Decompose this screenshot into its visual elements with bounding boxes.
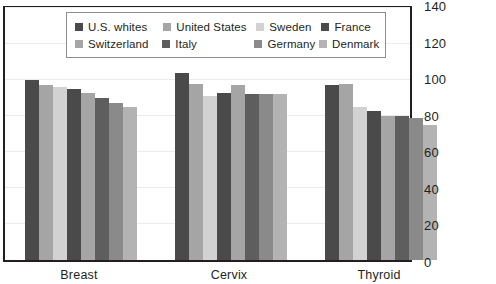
legend-swatch-icon	[254, 40, 262, 48]
legend-item[interactable]: Italy	[162, 38, 254, 50]
bar	[189, 84, 203, 260]
x-axis: BreastCervixThyroid	[3, 265, 412, 284]
legend-label: U.S. whites	[88, 21, 147, 33]
legend-item[interactable]: France	[321, 21, 379, 33]
bar	[325, 85, 339, 260]
bar	[245, 94, 259, 260]
bar	[95, 98, 109, 260]
legend-swatch-icon	[163, 23, 171, 31]
legend-label: Italy	[175, 38, 197, 50]
legend-label: United States	[176, 21, 246, 33]
bar	[367, 111, 381, 260]
bar	[39, 85, 53, 260]
legend-item[interactable]: Denmark	[319, 38, 379, 50]
bar	[67, 89, 81, 260]
y-axis-tick-label: 20	[424, 219, 439, 232]
x-axis-tick-label-cervix: Cervix	[153, 268, 305, 282]
legend-row: SwitzerlandItalyGermanyDenmark	[75, 35, 379, 52]
bar	[395, 116, 409, 260]
y-axis: 020406080100120140	[416, 0, 494, 284]
bar	[175, 73, 189, 260]
y-axis-tick-label: 100	[424, 73, 446, 86]
legend-item[interactable]: U.S. whites	[75, 21, 163, 33]
bar	[25, 80, 39, 260]
legend-label: Germany	[267, 38, 315, 50]
legend-swatch-icon	[162, 40, 170, 48]
bar	[203, 96, 217, 260]
legend-row: U.S. whitesUnited StatesSwedenFrance	[75, 18, 379, 35]
y-axis-tick-label: 60	[424, 146, 439, 159]
x-axis-tick-label-breast: Breast	[3, 268, 155, 282]
y-axis-tick-label: 80	[424, 110, 439, 123]
legend-item[interactable]: Sweden	[256, 21, 321, 33]
y-axis-tick-label: 120	[424, 37, 446, 50]
legend-label: Sweden	[269, 21, 311, 33]
bar	[231, 85, 245, 260]
bar	[53, 87, 67, 260]
bar	[123, 107, 137, 260]
x-axis-tick-label-thyroid: Thyroid	[303, 268, 455, 282]
y-axis-tick-label: 40	[424, 183, 439, 196]
legend-label: Switzerland	[88, 38, 149, 50]
legend-swatch-icon	[75, 40, 83, 48]
bar	[339, 84, 353, 260]
bar	[217, 93, 231, 260]
legend-item[interactable]: Switzerland	[75, 38, 162, 50]
legend-item[interactable]: United States	[163, 21, 256, 33]
bar	[353, 107, 367, 260]
bar	[273, 94, 287, 260]
legend-swatch-icon	[321, 23, 329, 31]
y-axis-tick-label: 140	[424, 0, 446, 13]
legend-item[interactable]: Germany	[254, 38, 319, 50]
bar	[109, 103, 123, 260]
legend-swatch-icon	[319, 40, 327, 48]
chart-legend: U.S. whitesUnited StatesSwedenFranceSwit…	[66, 12, 386, 58]
bar	[381, 116, 395, 260]
bar-chart: 020406080100120140 BreastCervixThyroid U…	[0, 0, 496, 284]
legend-swatch-icon	[75, 23, 83, 31]
bar	[81, 93, 95, 260]
legend-swatch-icon	[256, 23, 264, 31]
legend-label: France	[334, 21, 370, 33]
bar	[259, 94, 273, 260]
legend-label: Denmark	[332, 38, 379, 50]
